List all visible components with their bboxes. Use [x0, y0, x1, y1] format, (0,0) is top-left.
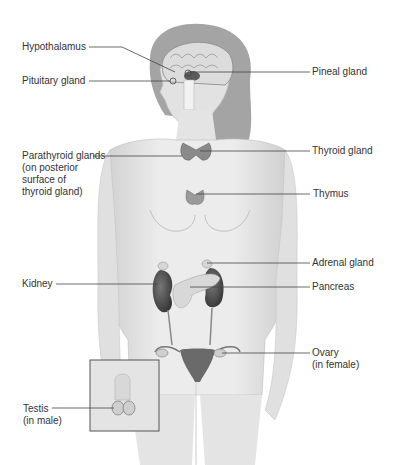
ovary-line-1: Ovary — [312, 347, 359, 359]
testis-right-organ — [123, 401, 135, 415]
label-thymus: Thymus — [313, 188, 349, 200]
label-thyroid-gland: Thyroid gland — [312, 145, 373, 157]
neck — [176, 110, 216, 140]
label-pineal-gland: Pineal gland — [312, 66, 367, 78]
label-pancreas: Pancreas — [312, 281, 354, 293]
parathyroid-line-1: Parathyroid glands — [22, 150, 105, 162]
label-pituitary-gland: Pituitary gland — [22, 75, 85, 87]
testis-line-2: (in male) — [23, 415, 62, 427]
parathyroid-line-4: thyroid gland) — [22, 186, 105, 198]
hypothalamus-organ — [184, 71, 200, 81]
label-ovary: Ovary (in female) — [312, 347, 359, 371]
ovary-line-2: (in female) — [312, 359, 359, 371]
label-hypothalamus: Hypothalamus — [22, 41, 86, 53]
label-parathyroid-glands: Parathyroid glands (on posterior surface… — [22, 150, 105, 198]
parathyroid-line-2: (on posterior — [22, 162, 105, 174]
testis-line-1: Testis — [23, 403, 62, 415]
endocrine-diagram: Hypothalamus Pituitary gland Pineal glan… — [0, 0, 393, 465]
ovary-left-organ — [156, 349, 168, 357]
parathyroid-line-3: surface of — [22, 174, 105, 186]
label-kidney: Kidney — [22, 278, 53, 290]
label-adrenal-gland: Adrenal gland — [312, 257, 374, 269]
label-testis: Testis (in male) — [23, 403, 62, 427]
